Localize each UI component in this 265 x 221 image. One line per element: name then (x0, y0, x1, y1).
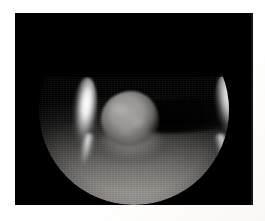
right-limb-crescent-tail (209, 132, 229, 205)
grey-round-feature-texture (103, 95, 155, 143)
image-plate (15, 13, 253, 205)
plate-edge-highlight (251, 13, 253, 205)
photo-frame (0, 0, 265, 221)
planet-disc (39, 15, 229, 205)
